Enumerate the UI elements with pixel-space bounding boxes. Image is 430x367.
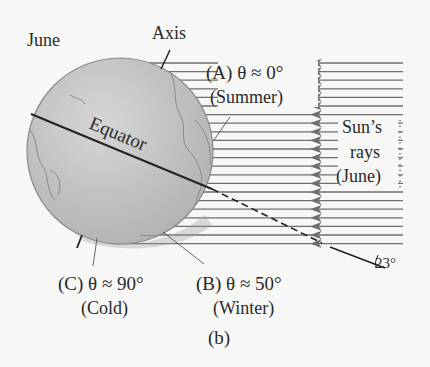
figure-caption: (b) xyxy=(208,327,230,349)
earth-globe-icon xyxy=(27,58,213,248)
axis-top-line xyxy=(161,50,170,69)
label-c-angle: (C) θ ≈ 90° xyxy=(58,273,144,295)
label-angle-23: 23° xyxy=(375,255,396,271)
label-rays: rays xyxy=(350,142,380,162)
pointer-a xyxy=(214,117,230,140)
label-a-angle: (A) θ ≈ 0° xyxy=(206,62,283,84)
seasons-diagram: June Axis Equator (A) θ ≈ 0° (Summer) Su… xyxy=(0,0,430,367)
label-a-season: (Summer) xyxy=(210,87,283,108)
label-june: June xyxy=(27,30,60,50)
label-c-season: (Cold) xyxy=(81,298,128,319)
label-rays-june: (June) xyxy=(336,166,381,187)
label-b-season: (Winter) xyxy=(213,298,274,319)
label-sun: Sun’s xyxy=(342,117,382,137)
label-b-angle: (B) θ ≈ 50° xyxy=(196,273,282,295)
label-axis: Axis xyxy=(152,23,186,43)
